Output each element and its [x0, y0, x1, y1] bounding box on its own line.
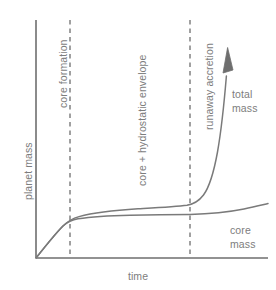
curve-label-total-mass-line2: mass	[232, 101, 258, 115]
curve-label-core-mass: core mass	[230, 223, 256, 251]
total-mass-arrowhead	[223, 48, 233, 74]
curve-label-total-mass-line1: total	[232, 87, 258, 101]
phase-label-core-hydrostatic-envelope: core + hydrostatic envelope	[136, 55, 149, 186]
planet-formation-diagram: planet mass time core formation core + h…	[0, 0, 276, 290]
curve-label-core-mass-line2: mass	[230, 237, 256, 251]
phase-label-core-formation: core formation	[57, 39, 70, 108]
phase-label-runaway-accretion: runaway accretion	[203, 43, 216, 130]
curve-label-total-mass: total mass	[232, 87, 258, 115]
x-axis-label: time	[128, 270, 148, 283]
y-axis-label: planet mass	[22, 142, 35, 200]
curve-label-core-mass-line1: core	[230, 223, 256, 237]
